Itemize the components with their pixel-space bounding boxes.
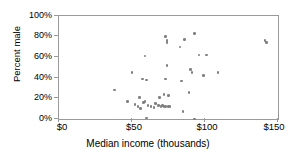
- data-point: [205, 54, 208, 57]
- data-point: [202, 74, 205, 77]
- data-point: [164, 78, 167, 81]
- data-point: [188, 91, 191, 94]
- x-axis-title: Median income (thousands): [0, 138, 296, 149]
- data-point: [139, 107, 142, 110]
- data-point: [265, 41, 268, 44]
- x-tick-label-150: $150: [263, 122, 284, 132]
- data-point: [166, 41, 169, 44]
- data-point: [150, 105, 153, 108]
- data-point: [193, 32, 196, 35]
- data-point: [134, 103, 137, 106]
- y-tick-label-60: 60%: [34, 52, 52, 61]
- data-point: [138, 96, 141, 99]
- data-point: [144, 55, 147, 58]
- data-point: [153, 106, 156, 109]
- data-point: [145, 117, 148, 120]
- data-point: [131, 71, 134, 74]
- y-tick-label-80: 80%: [34, 31, 52, 40]
- data-point: [113, 89, 116, 92]
- data-point: [182, 110, 185, 113]
- data-point: [166, 64, 169, 67]
- y-tick-label-0: 0%: [39, 114, 52, 123]
- data-point: [167, 94, 170, 97]
- data-point: [147, 104, 150, 107]
- plot-area: [58, 15, 279, 120]
- y-axis: 100% 80% 60% 40% 20% 0%: [0, 0, 56, 158]
- data-point: [144, 100, 147, 103]
- x-tick-label-0: $0: [57, 122, 68, 132]
- y-tick-label-20: 20%: [34, 93, 52, 102]
- data-point: [198, 54, 201, 57]
- data-point: [145, 79, 148, 82]
- data-point: [180, 80, 183, 83]
- x-tick-label-100: $100: [196, 122, 217, 132]
- y-tick-label-40: 40%: [34, 73, 52, 82]
- data-point: [141, 78, 144, 81]
- y-tick-label-100: 100%: [29, 11, 52, 20]
- data-point: [179, 46, 182, 49]
- data-point: [126, 100, 129, 103]
- scatter-chart: Percent male 100% 80% 60% 40% 20% 0% $0 …: [0, 0, 296, 158]
- data-point: [217, 71, 220, 74]
- data-point: [169, 105, 172, 108]
- data-point: [158, 96, 161, 99]
- data-point: [183, 38, 186, 41]
- data-point: [191, 71, 194, 74]
- data-point: [163, 93, 166, 96]
- x-tick-label-50: $50: [126, 122, 142, 132]
- data-point: [164, 35, 167, 38]
- data-point: [193, 118, 196, 121]
